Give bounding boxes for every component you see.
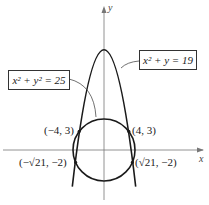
y-axis-arrow-icon bbox=[102, 6, 107, 13]
graph-canvas bbox=[0, 0, 209, 205]
parabola-leader-line bbox=[121, 61, 139, 68]
y-axis-label: y bbox=[108, 2, 112, 13]
point-marker bbox=[78, 130, 81, 133]
x-axis-label: x bbox=[199, 153, 203, 164]
x-axis-arrow-icon bbox=[197, 148, 204, 153]
point-marker bbox=[131, 161, 134, 164]
point-marker bbox=[127, 130, 130, 133]
point-label: (−4, 3) bbox=[44, 125, 74, 136]
circle-equation-box: x² + y² = 25 bbox=[8, 70, 70, 90]
point-marker bbox=[74, 161, 77, 164]
point-label: (√21, −2) bbox=[135, 157, 177, 168]
point-label: (4, 3) bbox=[132, 125, 156, 136]
point-label: (−√21, −2) bbox=[19, 157, 67, 168]
parabola-equation-box: x² + y = 19 bbox=[139, 50, 197, 70]
